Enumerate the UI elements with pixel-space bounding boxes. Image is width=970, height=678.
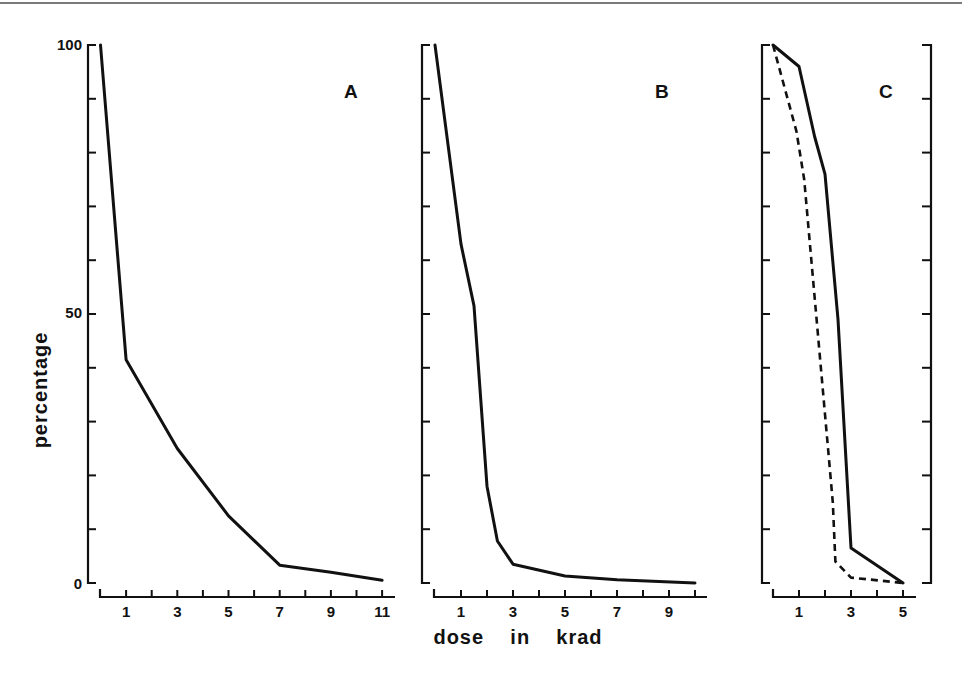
x-tick-label: 3: [173, 603, 181, 620]
x-tick-label: 7: [613, 603, 621, 620]
panel-a-label: A: [344, 81, 358, 102]
y-tick-label-50: 50: [65, 304, 82, 321]
x-tick-label: 11: [374, 603, 390, 620]
y-tick-label-0: 0: [74, 575, 82, 592]
x-tick-label: 1: [457, 603, 465, 620]
solid-data-line: [101, 45, 383, 580]
panel-a: 1357911 100 50 0 A: [57, 36, 395, 620]
x-tick-label: 5: [224, 603, 232, 620]
x-axis-line: [434, 589, 707, 597]
x-tick-label: 3: [847, 603, 855, 620]
x-tick-label: 1: [122, 603, 130, 620]
panel-a-axes: 1357911: [88, 45, 395, 620]
dose-response-figure: 1357911 100 50 0 A 13579 B 135 C percent…: [0, 0, 970, 678]
x-tick-label: 3: [509, 603, 517, 620]
y-tick-label-100: 100: [57, 36, 82, 53]
panel-b-label: B: [655, 81, 669, 102]
panel-c: 135 C: [762, 45, 931, 620]
x-tick-label: 9: [665, 603, 673, 620]
y-axis-label: percentage: [29, 332, 51, 449]
x-axis-line: [100, 589, 395, 597]
panel-c-curves: [773, 45, 903, 583]
panel-c-label: C: [879, 81, 893, 102]
x-tick-label: 9: [327, 603, 335, 620]
x-axis-label: dose in krad: [433, 626, 602, 648]
solid-data-line: [435, 45, 695, 583]
x-tick-label: 5: [899, 603, 907, 620]
panel-b-curves: [435, 45, 695, 583]
x-tick-label: 1: [795, 603, 803, 620]
x-tick-label: 5: [561, 603, 569, 620]
panel-b: 13579 B: [422, 45, 707, 620]
x-axis-line: [773, 589, 916, 597]
panel-a-curves: [101, 45, 383, 580]
solid-data-line: [773, 45, 903, 583]
x-tick-label: 7: [276, 603, 284, 620]
panel-b-axes: 13579: [422, 45, 707, 620]
panel-c-axes: 135: [762, 45, 931, 620]
